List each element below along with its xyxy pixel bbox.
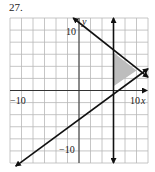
axes bbox=[10, 18, 147, 163]
inequality-graph: −10 10 x 10 −10 y bbox=[0, 0, 155, 172]
y-tick-min: −10 bbox=[59, 144, 75, 155]
x-tick-max: 10 bbox=[130, 95, 140, 106]
increasing-boundary-line bbox=[16, 69, 148, 166]
x-tick-min: −10 bbox=[10, 95, 26, 106]
x-axis-label: x bbox=[140, 95, 146, 106]
y-tick-max: 10 bbox=[66, 26, 76, 37]
boundary-lines bbox=[16, 18, 148, 166]
y-axis-label: y bbox=[81, 16, 87, 27]
